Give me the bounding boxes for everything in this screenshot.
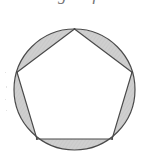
figure-container: total angle of <box>0 0 149 161</box>
pentagon-in-circle-diagram <box>0 0 149 161</box>
vertex-left-marker <box>16 71 18 73</box>
vertex-bottom-left-marker <box>36 138 38 140</box>
vertex-bottom-right-marker <box>111 138 113 140</box>
vertex-top-marker <box>74 28 76 30</box>
vertex-right-marker <box>131 71 133 73</box>
